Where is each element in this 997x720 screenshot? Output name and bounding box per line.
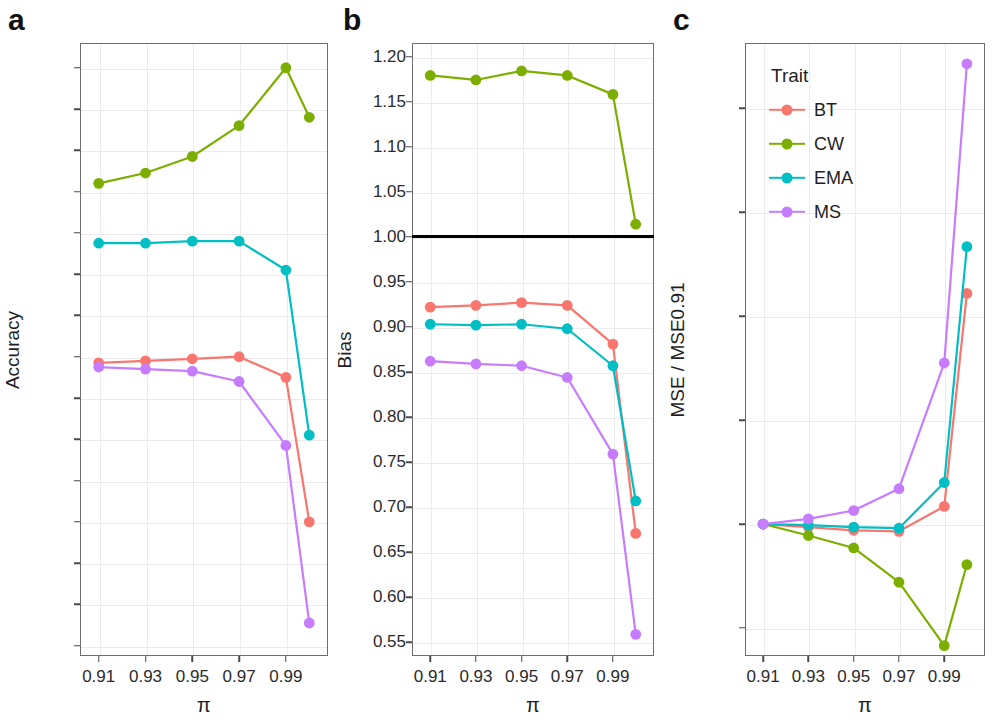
- data-point-ema: [894, 523, 905, 534]
- legend-item-label: MS: [814, 202, 841, 223]
- legend-key-swatch: [769, 167, 805, 189]
- legend-dot-icon: [782, 207, 793, 218]
- legend-item-ms[interactable]: MS: [769, 195, 853, 229]
- data-point-cw: [894, 577, 905, 588]
- data-point-ms: [939, 358, 950, 369]
- legend-dot-icon: [782, 105, 793, 116]
- data-point-bt: [939, 501, 950, 512]
- data-point-ema: [939, 477, 950, 488]
- legend-item-label: BT: [814, 100, 837, 121]
- legend-dot-icon: [782, 139, 793, 150]
- figure-container: a 0.120.140.160.180.200.220.240.260.280.…: [0, 0, 997, 720]
- data-point-ms: [758, 519, 769, 530]
- data-point-cw: [848, 543, 859, 554]
- data-point-ema: [848, 522, 859, 533]
- legend-dot-icon: [782, 173, 793, 184]
- panel-c: c 0.991.001.011.021.031.04 0.910.930.950…: [665, 0, 997, 720]
- data-point-ms: [803, 513, 814, 524]
- trait-legend: Trait BTCWEMAMS: [769, 65, 853, 229]
- legend-item-label: CW: [814, 134, 844, 155]
- legend-key-swatch: [769, 201, 805, 223]
- data-point-cw: [939, 640, 950, 651]
- legend-key-swatch: [769, 99, 805, 121]
- legend-item-ema[interactable]: EMA: [769, 161, 853, 195]
- series-line-bt: [763, 293, 967, 531]
- series-line-cw: [763, 524, 967, 646]
- legend-item-label: EMA: [814, 168, 853, 189]
- legend-key-swatch: [769, 133, 805, 155]
- legend-item-cw[interactable]: CW: [769, 127, 853, 161]
- data-point-ema: [961, 241, 972, 252]
- data-point-ms: [894, 483, 905, 494]
- data-point-cw: [803, 530, 814, 541]
- data-point-cw: [961, 559, 972, 570]
- data-point-ms: [961, 58, 972, 69]
- legend-title: Trait: [769, 65, 853, 87]
- legend-items: BTCWEMAMS: [769, 93, 853, 229]
- data-point-ms: [848, 505, 859, 516]
- legend-item-bt[interactable]: BT: [769, 93, 853, 127]
